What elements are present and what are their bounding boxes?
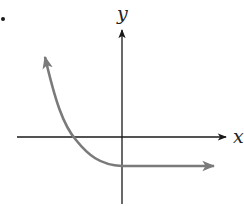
x-axis-label: x [233,125,244,147]
y-axis-label: y [116,2,128,24]
bullet-dot [1,17,5,21]
graph-figure: x y [0,0,244,207]
function-curve [45,57,214,166]
